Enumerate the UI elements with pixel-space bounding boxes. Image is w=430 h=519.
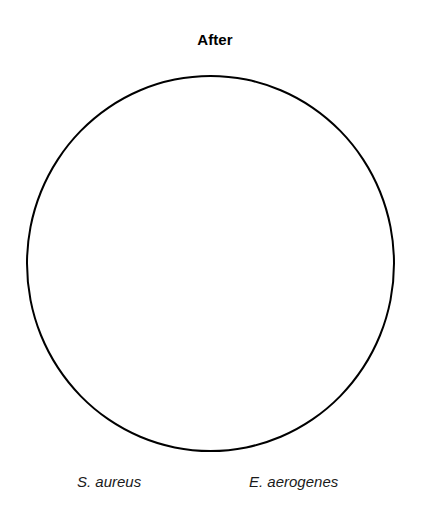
organism-label-row: S. aureus E. aerogenes <box>0 472 430 496</box>
organism-label-e-aerogenes: E. aerogenes <box>249 472 338 492</box>
agar-plate-figure: After S. aureus E. aerogenes <box>0 0 430 519</box>
page-title: After <box>0 31 430 49</box>
organism-label-s-aureus: S. aureus <box>77 472 141 492</box>
petri-dish-circle <box>26 75 395 452</box>
